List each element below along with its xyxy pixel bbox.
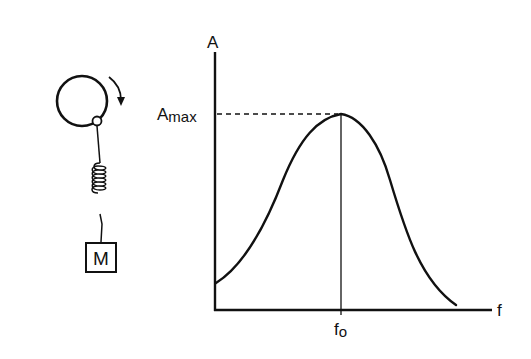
resonance-figure: M A f Amax fo	[0, 0, 531, 359]
spring	[92, 126, 106, 242]
f0-label: fo	[334, 320, 347, 340]
rotation-arrow-icon	[109, 77, 125, 106]
resonance-curve	[216, 114, 456, 305]
pivot-pin	[93, 117, 102, 126]
driving-wheel	[57, 76, 107, 126]
y-axis-label: A	[207, 33, 219, 52]
mass-label: M	[93, 248, 109, 269]
x-axis-label: f	[497, 301, 502, 320]
svg-text:Amax: Amax	[157, 105, 197, 125]
svg-text:fo: fo	[334, 320, 347, 340]
graph-axes	[214, 52, 492, 311]
amax-label: Amax	[157, 105, 197, 125]
mass-block: M	[86, 243, 116, 272]
